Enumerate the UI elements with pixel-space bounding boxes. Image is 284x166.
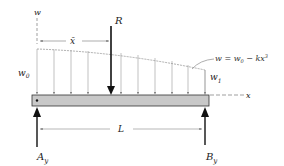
x-bar-dimension: x̄ (40, 36, 109, 46)
load-equation: w = w0 − kx3 (192, 53, 268, 69)
load-arrows (37, 49, 205, 94)
beam-load-diagram: w x̄ R w0 w1 w = w0 − kx3 (0, 0, 284, 166)
reaction-Ay-arrow: Ay (33, 107, 49, 165)
origin-point (36, 99, 38, 101)
equation-label: w = w0 − kx3 (215, 53, 268, 64)
w1-label: w1 (210, 72, 222, 84)
x-axis-label: x (246, 91, 251, 100)
Ay-label: Ay (36, 151, 49, 165)
w-axis-label: w (34, 8, 41, 17)
By-label: By (205, 151, 218, 165)
w0-label: w0 (18, 68, 30, 79)
x-axis: x (210, 91, 251, 100)
length-label: L (117, 124, 124, 134)
x-bar-label: x̄ (70, 36, 75, 46)
beam (32, 95, 209, 106)
resultant-label: R (114, 15, 123, 26)
length-dimension: L (40, 124, 202, 134)
reaction-By-arrow: By (201, 107, 218, 165)
w-axis: w (34, 8, 41, 44)
